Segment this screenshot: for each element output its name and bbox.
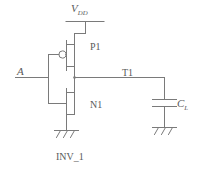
output-node-label: T1 bbox=[122, 68, 133, 78]
schematic-canvas bbox=[0, 0, 203, 172]
gnd-right-hatch-3 bbox=[169, 128, 173, 135]
load-capacitor-label: CL bbox=[177, 98, 188, 112]
gnd-left-hatch-1 bbox=[57, 131, 61, 138]
supply-voltage-label: VDD bbox=[71, 3, 88, 17]
inverter-block-label: INV_1 bbox=[56, 152, 84, 162]
supply-voltage-subscript: DD bbox=[78, 9, 88, 16]
p1-inversion-bubble-icon bbox=[59, 51, 66, 58]
gnd-left-hatch-3 bbox=[71, 131, 75, 138]
inverter-schematic-diagram: VDD A P1 N1 T1 CL INV_1 bbox=[0, 0, 203, 172]
gnd-left-hatch-2 bbox=[64, 131, 68, 138]
supply-voltage-symbol: V bbox=[71, 2, 78, 14]
gnd-right-hatch-1 bbox=[155, 128, 159, 135]
pmos-transistor-label: P1 bbox=[90, 42, 101, 52]
gnd-right-hatch-2 bbox=[162, 128, 166, 135]
load-capacitor-subscript: L bbox=[184, 104, 188, 111]
input-signal-label: A bbox=[17, 66, 24, 77]
nmos-transistor-label: N1 bbox=[90, 100, 102, 110]
